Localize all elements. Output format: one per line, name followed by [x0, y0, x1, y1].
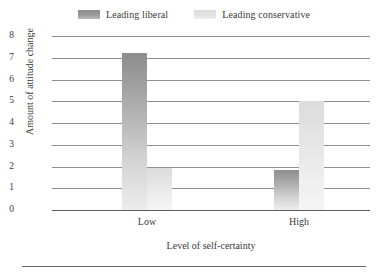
bar-low-conservative [147, 168, 172, 210]
bar-high-liberal [274, 170, 299, 210]
legend-entry-liberal: Leading liberal [78, 9, 168, 20]
bottom-divider [22, 266, 366, 267]
gridline-7 [52, 58, 370, 59]
y-tick-label-4: 4 [0, 118, 14, 128]
bar-low-liberal [122, 53, 147, 210]
y-tick-label-7: 7 [0, 53, 14, 63]
chart-figure: Leading liberal Leading conservative Amo… [0, 0, 388, 276]
y-tick-label-6: 6 [0, 75, 14, 85]
y-tick-label-3: 3 [0, 140, 14, 150]
y-tick-label-0: 0 [0, 205, 14, 215]
x-axis-title: Level of self-certainty [52, 240, 370, 251]
legend-entry-conservative: Leading conservative [194, 9, 310, 20]
gridline-0 [52, 210, 370, 211]
gridline-6 [52, 80, 370, 81]
y-tick-label-8: 8 [0, 31, 14, 41]
bar-high-conservative [299, 101, 324, 210]
legend-label-conservative: Leading conservative [222, 9, 310, 20]
y-axis-title: Amount of attitude change [24, 0, 35, 167]
y-tick-label-2: 2 [0, 162, 14, 172]
x-axis-tick-high: High [254, 216, 344, 227]
chart-legend: Leading liberal Leading conservative [0, 4, 388, 24]
x-axis-tick-low: Low [102, 216, 192, 227]
legend-swatch-conservative-icon [194, 10, 216, 19]
y-tick-label-1: 1 [0, 183, 14, 193]
legend-label-liberal: Leading liberal [106, 9, 168, 20]
gridline-8 [52, 36, 370, 37]
legend-swatch-liberal-icon [78, 10, 100, 19]
y-tick-label-5: 5 [0, 96, 14, 106]
plot-area [52, 36, 370, 210]
